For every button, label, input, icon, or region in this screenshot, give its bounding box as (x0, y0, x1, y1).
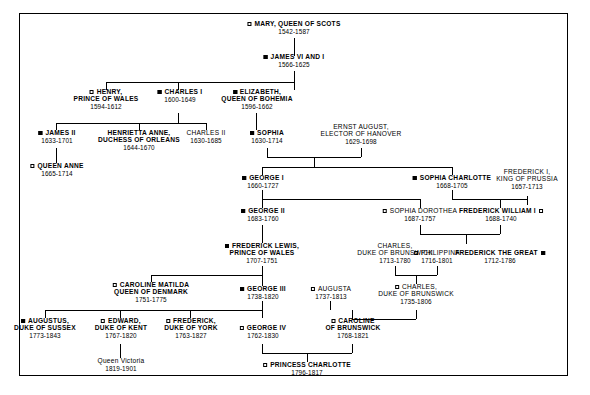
person-george-ii[interactable]: GEORGE II 1683-1760 (241, 208, 285, 223)
person-name: FREDERICK I, KING OF PRUSSIA (496, 169, 558, 182)
filled-square-icon (242, 176, 246, 180)
person-name: GEORGE IV (240, 325, 286, 332)
person-caroline-matilda[interactable]: CAROLINE MATILDA QUEEN OF DENMARK 1751-1… (113, 282, 189, 303)
person-dates: 1633-1701 (38, 138, 75, 144)
connector-to-elizabeth (294, 82, 295, 90)
filled-square-icon (264, 55, 268, 59)
hollow-square-icon (414, 251, 418, 255)
person-dates: 1773-1843 (14, 333, 76, 339)
person-name: FREDERICK THE GREAT (455, 250, 545, 257)
person-name: GEORGE I (242, 175, 284, 182)
hollow-square-icon (395, 285, 399, 289)
connector-charles-i-children-bar (56, 123, 206, 124)
person-dates: 1738-1820 (240, 294, 286, 300)
connector-george-iv-marriage-down (262, 344, 263, 353)
person-charles-i[interactable]: CHARLES I 1600-1649 (158, 89, 203, 104)
person-name: FREDERICK LEWIS, PRINCE OF WALES (225, 243, 299, 256)
person-henry-prince-of-wales[interactable]: HENRY, PRINCE OF WALES 1594-1612 (74, 89, 139, 110)
person-name: EDWARD, DUKE OF KENT (95, 318, 147, 331)
person-dates: 1542-1587 (247, 29, 340, 35)
hollow-square-icon (90, 90, 94, 94)
person-augusta[interactable]: AUGUSTA 1737-1813 (311, 286, 351, 301)
person-name: FREDERICK, DUKE OF YORK (164, 318, 217, 331)
person-sophia-dorothea[interactable]: SOPHIA DOROTHEA 1687-1757 (383, 208, 458, 223)
connector-augusta-marriage-down (330, 301, 331, 310)
connector-frederick-william-marriage-down (500, 225, 501, 234)
filled-square-icon (158, 90, 162, 94)
person-mary-queen-of-scots[interactable]: MARY, QUEEN OF SCOTS 1542-1587 (247, 21, 340, 36)
hollow-square-icon (113, 283, 117, 287)
person-dates: 1688-1740 (459, 216, 543, 222)
person-queen-victoria[interactable]: Queen Victoria 1819-1901 (98, 358, 145, 373)
person-dates: 1566-1625 (264, 62, 325, 68)
person-sophia[interactable]: SOPHIA 1630-1714 (250, 130, 284, 145)
person-augustus-duke-of-sussex[interactable]: AUGUSTUS, DUKE OF SUSSEX 1773-1843 (14, 318, 76, 339)
person-name: AUGUSTUS, DUKE OF SUSSEX (14, 318, 76, 331)
person-princess-charlotte[interactable]: PRINCESS CHARLOTTE 1796-1817 (263, 362, 351, 377)
connector-charles-i-down (178, 113, 179, 123)
connector-george-iii-marriage-down (262, 301, 263, 310)
person-name: CHARLES II (186, 130, 225, 137)
person-dates: 1660-1727 (242, 183, 284, 189)
person-queen-anne[interactable]: QUEEN ANNE 1665-1714 (30, 163, 83, 178)
connector-marriage-drop-1 (314, 157, 315, 167)
filled-square-icon (541, 251, 545, 255)
person-name: CAROLINE OF BRUNSWICK (325, 318, 380, 331)
person-frederick-i-king-of-prussia[interactable]: FREDERICK I, KING OF PRUSSIA 1657-1713 (496, 169, 558, 190)
person-ernst-august[interactable]: ERNST AUGUST, ELECTOR OF HANOVER 1629-16… (321, 124, 402, 145)
person-name: ELIZABETH, QUEEN OF BOHEMIA (221, 89, 292, 102)
person-dates: 1687-1757 (383, 216, 458, 222)
connector-george-i-down (262, 190, 263, 199)
person-george-iii[interactable]: GEORGE III 1738-1820 (240, 286, 286, 301)
person-henrietta-anne[interactable]: HENRIETTA ANNE, DUCHESS OF ORLEANS 1644-… (98, 130, 180, 151)
filled-square-icon (38, 131, 42, 135)
person-frederick-the-great[interactable]: FREDERICK THE GREAT 1712-1786 (455, 250, 545, 265)
person-frederick-duke-of-york[interactable]: FREDERICK, DUKE OF YORK 1763-1827 (164, 318, 217, 339)
person-charles-duke-of-brunswick-junior[interactable]: CHARLES, DUKE OF BRUNSWICK 1735-1806 (378, 284, 454, 305)
person-name: PHILIPPINA (414, 250, 460, 257)
person-dates: 1762-1830 (240, 333, 286, 339)
hollow-square-icon (166, 319, 170, 323)
person-philippina[interactable]: PHILIPPINA 1716-1801 (414, 250, 460, 265)
person-dates: 1735-1806 (378, 299, 454, 305)
person-sophia-charlotte[interactable]: SOPHIA CHARLOTTE 1668-1705 (413, 175, 492, 190)
connector-frederick-lewis-down (262, 266, 263, 275)
person-george-iv[interactable]: GEORGE IV 1762-1830 (240, 325, 286, 340)
filled-square-icon (413, 176, 417, 180)
hollow-square-icon (311, 287, 315, 291)
person-dates: 1751-1775 (113, 297, 189, 303)
filled-square-icon (241, 209, 245, 213)
hollow-square-icon (263, 363, 267, 367)
person-george-i[interactable]: GEORGE I 1660-1727 (242, 175, 284, 190)
person-name: CHARLES, DUKE OF BRUNSWICK (378, 284, 454, 297)
person-name: GEORGE II (241, 208, 285, 215)
connector-charles-brunswick-sr-down (395, 266, 396, 275)
person-dates: 1629-1698 (321, 139, 402, 145)
connector-edward-to-victoria (120, 344, 121, 358)
filled-square-icon (250, 131, 254, 135)
person-name: SOPHIA CHARLOTTE (413, 175, 492, 182)
person-frederick-william-i[interactable]: FREDERICK WILLIAM I 1688-1740 (459, 208, 543, 223)
person-charles-ii[interactable]: CHARLES II 1630-1685 (186, 130, 225, 145)
connector-ernst-marriage-down (361, 148, 362, 157)
person-james-ii[interactable]: JAMES II 1633-1701 (38, 130, 75, 145)
person-dates: 1796-1817 (263, 370, 351, 376)
connector-sophia-marriage-down (267, 148, 268, 157)
hollow-square-icon (30, 164, 34, 168)
hollow-square-icon (247, 22, 251, 26)
person-dates: 1737-1813 (311, 294, 351, 300)
filled-square-icon (240, 287, 244, 291)
person-caroline-of-brunswick[interactable]: CAROLINE OF BRUNSWICK 1768-1821 (325, 318, 380, 339)
connector-sophia-dorothea-marriage-down (420, 225, 421, 234)
person-frederick-lewis[interactable]: FREDERICK LEWIS, PRINCE OF WALES 1707-17… (225, 243, 299, 264)
person-dates: 1600-1649 (158, 97, 203, 103)
person-elizabeth-queen-of-bohemia[interactable]: ELIZABETH, QUEEN OF BOHEMIA 1596-1662 (221, 89, 292, 110)
person-dates: 1665-1714 (30, 171, 83, 177)
person-dates: 1594-1612 (74, 104, 139, 110)
person-dates: 1657-1713 (496, 184, 558, 190)
person-edward-duke-of-kent[interactable]: EDWARD, DUKE OF KENT 1767-1820 (95, 318, 147, 339)
person-name: HENRIETTA ANNE, DUCHESS OF ORLEANS (98, 130, 180, 143)
person-dates: 1668-1705 (413, 183, 492, 189)
person-name: SOPHIA DOROTHEA (383, 208, 458, 215)
person-james-vi-and-i[interactable]: JAMES VI AND I 1566-1625 (264, 54, 325, 69)
